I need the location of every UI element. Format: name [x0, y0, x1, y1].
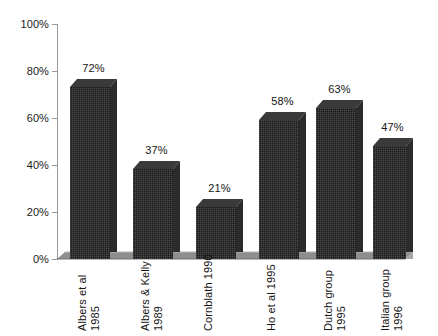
category-label-line-2: 1996 [392, 269, 405, 331]
category-label-line-1: Albers et al [76, 275, 89, 331]
category-label-cornblath-1990: Cornblath 1990 [202, 254, 215, 331]
y-tick-mark-20 [52, 212, 57, 213]
data-label-ho-1995: 58% [259, 95, 306, 107]
category-label-line-2: 1995 [335, 270, 348, 331]
bar-side-face [356, 100, 363, 252]
bar-front-face [133, 169, 173, 259]
bar-side-face [406, 138, 413, 252]
data-label-dutch-group-1995: 63% [316, 83, 363, 95]
category-label-line-1: Albers & Kelly [139, 261, 152, 331]
category-label-albers-1985: Albers et al 1985 [76, 275, 101, 331]
category-label-line-1: Ho et al 1995 [265, 264, 278, 331]
bar-side-face [110, 79, 117, 252]
category-label-ho-1995: Ho et al 1995 [265, 264, 278, 331]
bar-top-face [196, 199, 236, 207]
bar-albers-kelly-1989 [133, 161, 173, 259]
bar-top-face [70, 79, 110, 87]
bar-front-face [316, 108, 356, 259]
bar-front-face [196, 207, 236, 259]
data-label-albers-kelly-1989: 37% [133, 144, 180, 156]
y-tick-label-20: 20% [27, 207, 49, 218]
category-label-line-1: Dutch group [322, 270, 335, 331]
category-label-line-2: 1985 [89, 275, 102, 331]
bar-top-face [259, 112, 299, 120]
category-label-line-2: 1989 [152, 261, 165, 331]
data-label-cornblath-1990: 21% [196, 182, 243, 194]
bar-cornblath-1990 [196, 199, 236, 259]
bar-front-face [259, 120, 299, 259]
bar-albers-1985 [70, 79, 110, 259]
bar-dutch-group-1995 [316, 100, 356, 259]
category-label-dutch-group-1995: Dutch group 1995 [322, 270, 347, 331]
bar-front-face [373, 146, 406, 259]
category-label-albers-kelly-1989: Albers & Kelly 1989 [139, 261, 164, 331]
bar-side-face [236, 199, 243, 252]
category-label-line-1: Italian group [379, 269, 392, 331]
y-tick-mark-80 [52, 71, 57, 72]
y-tick-label-40: 40% [27, 160, 49, 171]
y-tick-mark-40 [52, 165, 57, 166]
y-tick-label-80: 80% [27, 66, 49, 77]
data-label-italian-group-1996: 47% [369, 121, 416, 133]
y-tick-label-0: 0% [33, 254, 49, 265]
bar-italian-group-1996 [373, 138, 406, 259]
data-label-albers-1985: 72% [70, 62, 117, 74]
bar-top-face [373, 138, 406, 146]
category-label-line-1: Cornblath 1990 [202, 254, 215, 331]
y-tick-label-100: 100% [20, 19, 49, 30]
bar-chart: 100% 80% 60% 40% 20% 0% [0, 0, 438, 336]
bar-front-face [70, 87, 110, 259]
bar-top-face [133, 161, 173, 169]
category-label-italian-group-1996: Italian group 1996 [379, 269, 404, 331]
y-tick-label-60: 60% [27, 113, 49, 124]
bar-ho-1995 [259, 112, 299, 259]
bar-side-face [299, 112, 306, 252]
y-tick-mark-100 [52, 24, 57, 25]
bar-side-face [173, 161, 180, 252]
bar-top-face [316, 100, 356, 108]
y-tick-mark-60 [52, 118, 57, 119]
y-axis-line [57, 24, 58, 260]
